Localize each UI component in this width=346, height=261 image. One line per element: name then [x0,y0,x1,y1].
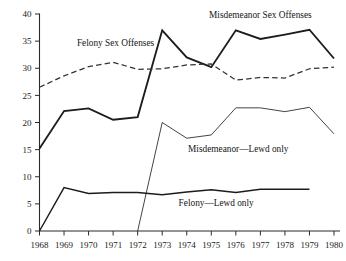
x-axis-ticks: 1968196919701971197219731974197519761977… [31,231,344,250]
x-tick-label: 1979 [300,240,319,250]
series-annotations-group: Misdemeanor Sex OffensesFelony Sex Offen… [77,10,312,208]
x-tick-label: 1974 [178,240,197,250]
y-tick-label: 10 [23,172,33,182]
x-tick-label: 1972 [129,240,147,250]
y-tick-label: 15 [23,145,33,155]
y-tick-label: 30 [23,63,33,73]
x-tick-label: 1971 [104,240,122,250]
x-tick-label: 1973 [153,240,172,250]
x-tick-label: 1980 [325,240,344,250]
y-tick-label: 35 [23,36,33,46]
y-tick-label: 25 [23,91,33,101]
x-tick-label: 1970 [80,240,99,250]
y-tick-label: 0 [27,226,32,236]
series-label: Misdemeanor Sex Offenses [209,10,312,20]
x-tick-label: 1976 [227,240,246,250]
series-label: Felony—Lewd only [179,198,254,208]
y-axis-ticks: 0510152025303540 [23,9,40,236]
series-line [138,107,334,231]
x-tick-label: 1968 [31,240,50,250]
y-tick-label: 5 [27,199,32,209]
series-line [40,62,335,87]
series-line [40,188,310,231]
chart-container: 0510152025303540 19681969197019711972197… [0,0,346,261]
x-tick-label: 1975 [202,240,221,250]
series-label: Misdemeanor—Lewd only [188,144,289,154]
series-label: Felony Sex Offenses [77,38,155,48]
x-tick-label: 1978 [276,240,295,250]
line-chart: 0510152025303540 19681969197019711972197… [0,0,346,261]
y-tick-label: 40 [23,9,33,19]
y-tick-label: 20 [23,118,33,128]
x-tick-label: 1977 [251,240,270,250]
x-tick-label: 1969 [55,240,74,250]
